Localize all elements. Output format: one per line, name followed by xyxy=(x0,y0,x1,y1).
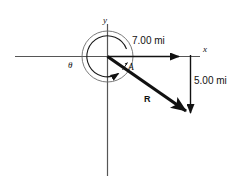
diagram-canvas xyxy=(0,0,235,179)
vertical-distance-label: 5.00 mi xyxy=(194,76,227,86)
vector-a-label: A xyxy=(128,63,134,73)
horizontal-distance-label: 7.00 mi xyxy=(132,36,165,46)
theta-angle-label: θ xyxy=(68,61,72,70)
vector-diagram-figure: y x θ A R 7.00 mi 5.00 mi xyxy=(0,0,235,179)
x-axis-label: x xyxy=(203,45,207,54)
y-axis-label: y xyxy=(103,16,107,25)
vector-r-label: R xyxy=(144,95,151,104)
